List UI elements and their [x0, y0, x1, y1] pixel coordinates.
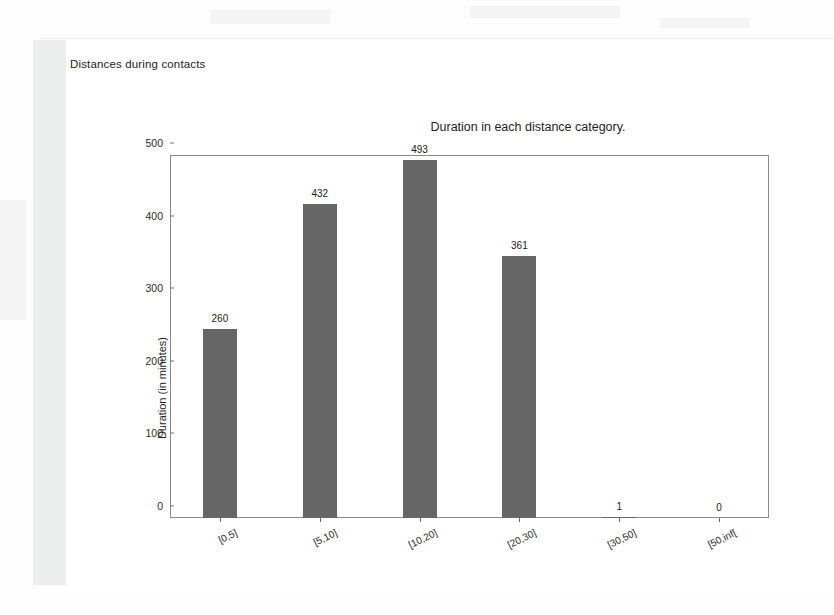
bar: 361: [502, 155, 536, 518]
page-top-edge: [40, 38, 834, 39]
scan-artifact: [0, 200, 26, 320]
bar-rect: [303, 204, 337, 518]
bar-value-label: 432: [311, 188, 328, 199]
bar-value-label: 493: [411, 144, 428, 155]
x-tick-label: [50,inf[: [706, 527, 738, 550]
scan-artifact: [210, 10, 330, 24]
bar-value-label: 1: [616, 501, 622, 512]
x-tick-mark: [320, 518, 321, 522]
x-tick-mark: [519, 518, 520, 522]
y-tick-mark: [170, 360, 174, 361]
y-tick-label: 500: [145, 137, 170, 149]
y-tick-label: 300: [145, 282, 170, 294]
bar-chart-figure: Duration in each distance category. Dura…: [118, 112, 798, 582]
y-tick-label: 200: [145, 355, 170, 367]
bar: 0: [702, 155, 736, 518]
x-tick-label: [20,30]: [506, 527, 538, 550]
y-tick-mark: [170, 506, 174, 507]
y-tick-label: 400: [145, 210, 170, 222]
x-tick-mark: [220, 518, 221, 522]
x-tick-mark: [420, 518, 421, 522]
bar-rect: [502, 256, 536, 518]
y-tick-mark: [170, 433, 174, 434]
y-axis-label: Duration (in minutes): [156, 337, 168, 439]
bar: 493: [403, 155, 437, 518]
document-heading: Distances during contacts: [70, 57, 205, 71]
y-tick-label: 100: [145, 427, 170, 439]
y-tick: 300: [145, 282, 170, 294]
scan-artifact: [660, 18, 750, 28]
y-tick-label: 0: [157, 500, 170, 512]
bar-value-label: 0: [716, 502, 722, 513]
bar-value-label: 260: [212, 313, 229, 324]
bar-value-label: 361: [511, 240, 528, 251]
x-tick-label: [0,5]: [216, 527, 238, 545]
x-tick-mark: [719, 518, 720, 522]
y-tick: 0: [157, 500, 170, 512]
bar-rect: [403, 160, 437, 518]
y-tick-mark: [170, 143, 174, 144]
y-tick-mark: [170, 288, 174, 289]
bar: 260: [203, 155, 237, 518]
y-tick: 400: [145, 210, 170, 222]
y-tick: 100: [145, 427, 170, 439]
x-tick-mark: [619, 518, 620, 522]
left-margin-band: [33, 40, 66, 585]
scan-artifact: [470, 6, 620, 18]
x-tick-label: [30,50]: [606, 527, 638, 550]
bar-rect: [203, 329, 237, 518]
bar: 1: [602, 155, 636, 518]
bar: 432: [303, 155, 337, 518]
plot-area: Duration (in minutes) 0100200300400500 2…: [170, 155, 769, 518]
y-tick-mark: [170, 215, 174, 216]
chart-title: Duration in each distance category.: [288, 120, 768, 134]
x-tick-label: [5,10]: [311, 527, 338, 548]
y-tick: 500: [145, 137, 170, 149]
x-tick-label: [10,20]: [406, 527, 438, 550]
y-tick: 200: [145, 355, 170, 367]
